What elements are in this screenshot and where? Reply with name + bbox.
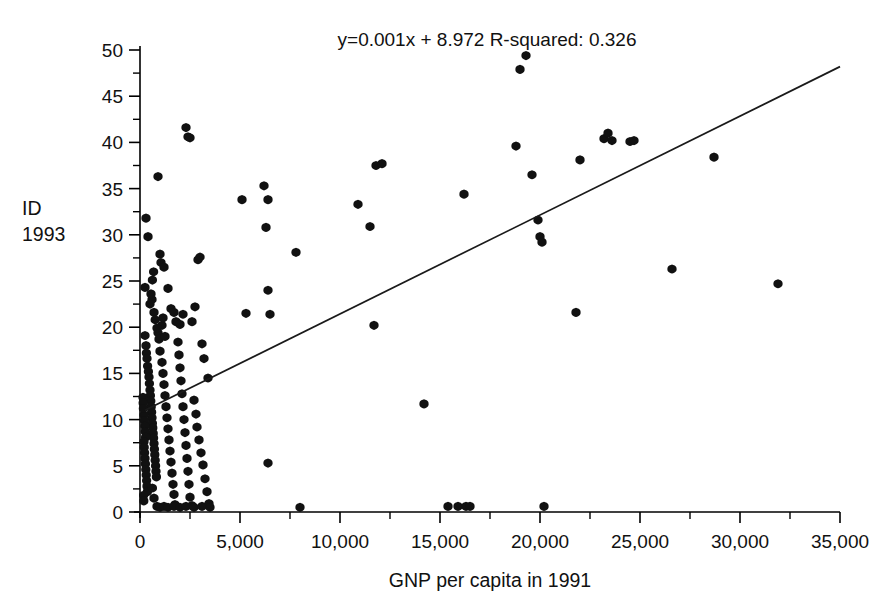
data-point: [161, 402, 170, 411]
data-point: [185, 493, 194, 502]
data-point: [667, 264, 676, 273]
chart-figure: 05101520253035404550 05,00010,00015,0002…: [0, 0, 895, 615]
y-axis-label-line2: 1993: [22, 223, 65, 245]
data-point: [196, 448, 205, 457]
x-tick-label: 20,000: [511, 531, 569, 552]
data-point: [261, 223, 270, 232]
data-point: [157, 358, 166, 367]
data-point: [183, 467, 192, 476]
data-point: [192, 422, 201, 431]
data-point: [709, 153, 718, 162]
data-point: [143, 232, 152, 241]
data-point: [453, 502, 462, 511]
data-point: [291, 248, 300, 257]
data-point: [153, 172, 162, 181]
data-point: [184, 480, 193, 489]
data-point: [515, 65, 524, 74]
data-point: [141, 214, 150, 223]
data-point: [180, 428, 189, 437]
data-point: [194, 435, 203, 444]
data-point: [162, 413, 171, 422]
data-point: [198, 460, 207, 469]
y-tick-label: 45: [102, 86, 123, 107]
data-point: [181, 441, 190, 450]
data-point: [419, 399, 428, 408]
data-point: [140, 331, 149, 340]
y-tick-label: 15: [102, 363, 123, 384]
data-point: [191, 409, 200, 418]
data-point: [443, 502, 452, 511]
y-tick-label: 0: [112, 502, 123, 523]
data-point: [295, 503, 304, 512]
y-tick-label: 5: [112, 456, 123, 477]
data-point: [263, 458, 272, 467]
data-point: [149, 494, 158, 503]
data-point: [263, 286, 272, 295]
data-point: [527, 170, 536, 179]
y-tick-label: 10: [102, 410, 123, 431]
fit-annotation: y=0.001x + 8.972 R-squared: 0.326: [338, 29, 637, 50]
data-point: [158, 313, 167, 322]
data-points: [138, 51, 782, 512]
data-point: [199, 354, 208, 363]
data-point: [148, 275, 157, 284]
y-tick-label: 25: [102, 271, 123, 292]
data-point: [353, 200, 362, 209]
data-point: [369, 321, 378, 330]
data-point: [179, 415, 188, 424]
data-point: [178, 310, 187, 319]
y-axis-label-line1: ID: [22, 197, 42, 219]
data-point: [178, 402, 187, 411]
data-point: [169, 490, 178, 499]
data-point: [263, 195, 272, 204]
y-axis-ticks: [129, 50, 140, 512]
data-point: [237, 195, 246, 204]
data-point: [173, 337, 182, 346]
data-point: [182, 454, 191, 463]
data-point: [175, 363, 184, 372]
y-tick-labels: 05101520253035404550: [102, 40, 123, 523]
data-point: [168, 480, 177, 489]
x-tick-label: 0: [135, 531, 146, 552]
y-tick-label: 50: [102, 40, 123, 61]
data-point: [511, 141, 520, 150]
data-point: [575, 155, 584, 164]
data-point: [197, 339, 206, 348]
x-tick-label: 5,000: [216, 531, 264, 552]
data-point: [265, 310, 274, 319]
data-point: [259, 181, 268, 190]
scatter-plot: 05101520253035404550 05,00010,00015,0002…: [0, 0, 895, 615]
data-point: [189, 396, 198, 405]
data-point: [149, 308, 158, 317]
data-point: [187, 317, 196, 326]
data-point: [181, 123, 190, 132]
data-point: [200, 474, 209, 483]
data-point: [159, 380, 168, 389]
y-tick-label: 40: [102, 132, 123, 153]
data-point: [459, 190, 468, 199]
data-point: [365, 222, 374, 231]
data-point: [158, 369, 167, 378]
x-tick-label: 15,000: [411, 531, 469, 552]
data-point: [167, 469, 176, 478]
data-point: [571, 308, 580, 317]
x-tick-label: 30,000: [711, 531, 769, 552]
y-tick-label: 20: [102, 317, 123, 338]
data-point: [155, 347, 164, 356]
data-point: [202, 487, 211, 496]
data-point: [163, 284, 172, 293]
data-point: [521, 51, 530, 60]
data-point: [163, 424, 172, 433]
data-point: [190, 302, 199, 311]
y-tick-label: 35: [102, 179, 123, 200]
data-point: [149, 267, 158, 276]
data-point: [773, 279, 782, 288]
x-tick-labels: 05,00010,00015,00020,00025,00030,00035,0…: [135, 531, 869, 552]
data-point: [174, 350, 183, 359]
regression-line: [145, 67, 840, 411]
data-point: [241, 309, 250, 318]
x-axis-label: GNP per capita in 1991: [389, 569, 591, 591]
x-tick-label: 25,000: [611, 531, 669, 552]
y-tick-label: 30: [102, 225, 123, 246]
x-tick-label: 10,000: [311, 531, 369, 552]
